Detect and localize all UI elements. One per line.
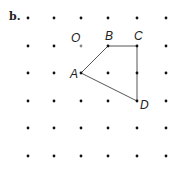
grid-dot xyxy=(27,100,30,103)
grid-dot xyxy=(136,127,139,130)
grid-dot xyxy=(136,155,139,158)
grid-canvas: OBCAD xyxy=(0,0,187,169)
grid-dot xyxy=(53,17,56,20)
grid-dot xyxy=(80,17,83,20)
grid-dot xyxy=(53,127,56,130)
grid-dot xyxy=(165,155,168,158)
point-label-O: O xyxy=(71,31,80,45)
grid-dot xyxy=(53,155,56,158)
grid-dot xyxy=(165,100,168,103)
part-label: b. xyxy=(9,10,21,23)
point-D xyxy=(136,100,139,103)
grid-dot xyxy=(53,45,56,48)
point-label-A: A xyxy=(69,67,78,81)
grid-dot xyxy=(107,100,110,103)
grid-dot xyxy=(165,17,168,20)
grid-dot xyxy=(27,17,30,20)
grid-dot xyxy=(27,127,30,130)
point-label-C: C xyxy=(134,29,143,43)
grid-dot xyxy=(80,127,83,130)
grid-dot xyxy=(136,72,139,75)
point-B xyxy=(107,45,110,48)
grid-dot xyxy=(136,17,139,20)
grid-dot xyxy=(80,155,83,158)
grid-dot xyxy=(80,100,83,103)
grid-dot xyxy=(27,72,30,75)
grid-dot xyxy=(107,72,110,75)
grid-dot xyxy=(27,45,30,48)
dot-grid-figure: b. OBCAD xyxy=(0,0,187,169)
grid-dot xyxy=(107,127,110,130)
point-A xyxy=(80,72,83,75)
point-C xyxy=(136,45,139,48)
grid-dot xyxy=(165,72,168,75)
grid-dot xyxy=(107,155,110,158)
point-label-B: B xyxy=(105,29,113,43)
grid-dot xyxy=(165,45,168,48)
point-label-D: D xyxy=(140,98,149,112)
grid-dot xyxy=(53,72,56,75)
grid-dot xyxy=(53,100,56,103)
grid-dot xyxy=(107,17,110,20)
grid-dot xyxy=(165,127,168,130)
point-O xyxy=(80,45,83,48)
grid-dot xyxy=(27,155,30,158)
